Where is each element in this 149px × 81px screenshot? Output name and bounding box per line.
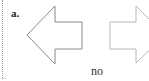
right-arrow-icon (110, 6, 149, 63)
arrow-diagram (0, 0, 149, 81)
left-arrow-icon (27, 6, 82, 64)
panel-caption: no (91, 64, 103, 79)
